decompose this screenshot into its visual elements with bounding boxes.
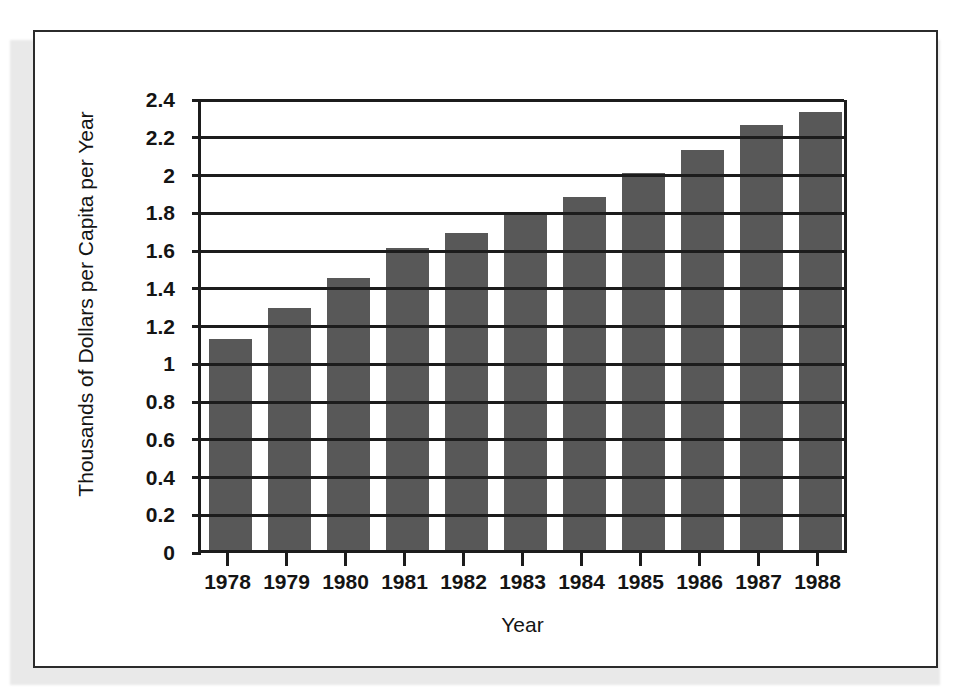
gridline: [201, 438, 844, 441]
x-tick-label: 1979: [263, 570, 310, 594]
y-tick-label: 2: [163, 165, 175, 186]
bar: [327, 278, 371, 550]
y-tick-label: 1.4: [146, 278, 175, 299]
chart-page-frame: Thousands of Dollars per Capita per Year…: [33, 30, 938, 668]
y-tick-mark: [192, 476, 201, 479]
x-tick-mark: [344, 553, 347, 566]
y-tick-label: 0: [163, 542, 175, 563]
bar: [622, 173, 666, 551]
y-tick-label: 1.2: [146, 316, 175, 337]
x-tick-label: 1987: [735, 570, 782, 594]
x-tick-label: 1984: [558, 570, 605, 594]
bar: [445, 233, 489, 550]
y-tick-mark: [192, 552, 201, 555]
y-tick-mark: [192, 514, 201, 517]
y-tick-label: 1: [163, 353, 175, 374]
gridline: [201, 325, 844, 328]
y-tick-label: 2.2: [146, 127, 175, 148]
gridline: [201, 401, 844, 404]
x-tick-mark: [639, 553, 642, 566]
x-tick-mark: [757, 553, 760, 566]
y-tick-mark: [192, 401, 201, 404]
y-tick-label: 0.2: [146, 504, 175, 525]
x-axis-tick-marks: [198, 553, 847, 567]
y-tick-mark: [192, 212, 201, 215]
x-tick-mark: [403, 553, 406, 566]
y-tick-label: 2.4: [146, 89, 175, 110]
x-axis-title: Year: [198, 613, 847, 637]
bar-chart: Thousands of Dollars per Capita per Year…: [35, 32, 940, 670]
gridline: [201, 287, 844, 290]
y-tick-label: 1.6: [146, 240, 175, 261]
y-tick-label: 0.8: [146, 391, 175, 412]
x-axis-tick-labels: 1978197919801981198219831984198519861987…: [198, 570, 847, 600]
gridline: [201, 514, 844, 517]
gridline: [201, 212, 844, 215]
gridline: [201, 99, 844, 102]
y-tick-mark: [192, 363, 201, 366]
y-tick-mark: [192, 250, 201, 253]
y-tick-mark: [192, 99, 201, 102]
gridline: [201, 136, 844, 139]
x-tick-label: 1978: [204, 570, 251, 594]
x-tick-label: 1980: [322, 570, 369, 594]
y-axis-tick-labels: 2.42.221.81.61.41.210.80.60.40.20: [35, 100, 187, 553]
bar: [386, 248, 430, 550]
x-tick-label: 1983: [499, 570, 546, 594]
x-tick-mark: [226, 553, 229, 566]
y-tick-label: 0.6: [146, 429, 175, 450]
x-tick-mark: [580, 553, 583, 566]
x-tick-label: 1981: [381, 570, 428, 594]
y-tick-mark: [192, 174, 201, 177]
gridline: [201, 250, 844, 253]
y-tick-label: 1.8: [146, 202, 175, 223]
bar: [209, 339, 253, 550]
gridline: [201, 476, 844, 479]
x-tick-mark: [285, 553, 288, 566]
x-tick-label: 1986: [676, 570, 723, 594]
y-tick-mark: [192, 136, 201, 139]
x-tick-label: 1985: [617, 570, 664, 594]
gridline: [201, 174, 844, 177]
x-tick-label: 1988: [794, 570, 841, 594]
x-tick-mark: [521, 553, 524, 566]
y-tick-mark: [192, 287, 201, 290]
bar: [740, 125, 784, 550]
gridline: [201, 363, 844, 366]
x-tick-mark: [462, 553, 465, 566]
bar: [504, 214, 548, 550]
bar: [799, 112, 843, 550]
plot-area: [198, 100, 847, 553]
x-tick-label: 1982: [440, 570, 487, 594]
x-tick-mark: [816, 553, 819, 566]
y-tick-mark: [192, 325, 201, 328]
x-tick-mark: [698, 553, 701, 566]
y-tick-label: 0.4: [146, 467, 175, 488]
bar: [681, 150, 725, 550]
y-tick-mark: [192, 438, 201, 441]
